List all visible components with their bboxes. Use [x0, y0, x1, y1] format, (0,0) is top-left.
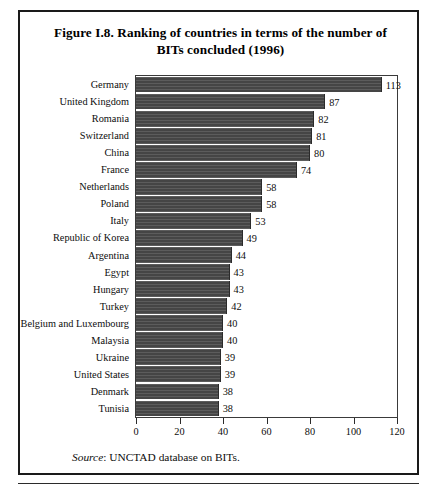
category-label: Italy	[14, 215, 135, 226]
value-axis: 020406080100120	[135, 418, 398, 448]
bar-value-label: 44	[232, 250, 246, 261]
bar-row: 44	[136, 247, 397, 263]
bar-chart: GermanyUnited KingdomRomaniaSwitzerlandC…	[20, 65, 417, 433]
bar	[136, 349, 221, 365]
x-axis-tick-label: 120	[389, 426, 404, 438]
category-label: Switzerland	[14, 130, 135, 141]
x-axis-tick	[136, 418, 137, 424]
bar	[136, 298, 227, 314]
category-label: China	[14, 147, 135, 158]
bar-row: 39	[136, 349, 397, 365]
bar-row: 53	[136, 213, 397, 229]
x-axis-tick	[223, 418, 224, 424]
x-axis-tick-label: 0	[133, 426, 138, 438]
bar	[136, 196, 262, 212]
category-label: Argentina	[14, 250, 135, 261]
plot-area: 1138782818074585853494443434240403939383…	[135, 75, 398, 418]
bar-row: 42	[136, 298, 397, 314]
bar	[136, 247, 232, 263]
bar-row: 74	[136, 162, 397, 178]
category-label: Malaysia	[14, 335, 135, 346]
category-label: Romania	[14, 113, 135, 124]
bar	[136, 315, 223, 331]
bar	[136, 77, 382, 93]
category-label: Egypt	[14, 267, 135, 278]
bar	[136, 332, 223, 348]
category-label: Hungary	[14, 284, 135, 295]
x-axis-tick-label: 100	[346, 426, 361, 438]
source-label: Source	[72, 451, 103, 463]
bar-row: 81	[136, 128, 397, 144]
figure-title: Figure I.8. Ranking of countries in term…	[32, 24, 409, 58]
bar-row: 43	[136, 281, 397, 297]
bar-value-label: 40	[223, 318, 237, 329]
bar-row: 87	[136, 94, 397, 110]
x-axis-tick-label: 60	[261, 426, 271, 438]
bar-row: 49	[136, 230, 397, 246]
bar-value-label: 53	[251, 215, 265, 226]
category-label: Denmark	[14, 386, 135, 397]
figure-title-line-1: Figure I.8. Ranking of countries in term…	[32, 24, 409, 41]
bar-value-label: 87	[325, 96, 339, 107]
bar-value-label: 38	[219, 386, 233, 397]
x-axis-tick	[397, 418, 398, 424]
bar-value-label: 80	[310, 147, 324, 158]
bar	[136, 401, 219, 417]
x-axis-tick-label: 80	[305, 426, 315, 438]
bar-row: 58	[136, 179, 397, 195]
category-axis-labels: GermanyUnited KingdomRomaniaSwitzerlandC…	[20, 65, 135, 408]
bar-row: 39	[136, 366, 397, 382]
category-label: Tunisia	[14, 403, 135, 414]
bar-value-label: 42	[227, 301, 241, 312]
x-axis-tick-label: 40	[218, 426, 228, 438]
bar-value-label: 39	[221, 352, 235, 363]
category-label: Turkey	[14, 301, 135, 312]
bar	[136, 128, 312, 144]
bar-row: 38	[136, 384, 397, 400]
source-note: Source: UNCTAD database on BITs.	[72, 450, 240, 464]
bar	[136, 179, 262, 195]
x-axis-tick-label: 20	[174, 426, 184, 438]
bar-row: 80	[136, 145, 397, 161]
bar-value-label: 82	[314, 113, 328, 124]
bar-value-label: 58	[262, 181, 276, 192]
bar	[136, 145, 310, 161]
bottom-rule	[18, 483, 419, 484]
x-axis-tick	[310, 418, 311, 424]
bar-row: 113	[136, 77, 397, 93]
bar	[136, 264, 230, 280]
x-axis-tick	[354, 418, 355, 424]
bar	[136, 213, 251, 229]
category-label: Ukraine	[14, 352, 135, 363]
bar-value-label: 43	[230, 284, 244, 295]
bar-value-label: 74	[297, 164, 311, 175]
bar-value-label: 40	[223, 335, 237, 346]
bar-row: 40	[136, 315, 397, 331]
source-separator: :	[103, 451, 106, 463]
category-label: Netherlands	[14, 181, 135, 192]
category-label: Belgium and Luxembourg	[14, 318, 135, 329]
bar-row: 58	[136, 196, 397, 212]
bar-row: 40	[136, 332, 397, 348]
category-label: United Kingdom	[14, 96, 135, 107]
bar	[136, 162, 297, 178]
x-axis-tick	[180, 418, 181, 424]
x-axis-tick	[267, 418, 268, 424]
bar-row: 38	[136, 401, 397, 417]
category-label: Poland	[14, 198, 135, 209]
category-label: France	[14, 164, 135, 175]
bars-layer: 1138782818074585853494443434240403939383…	[136, 76, 397, 417]
bar-value-label: 81	[312, 130, 326, 141]
bar-value-label: 38	[219, 403, 233, 414]
bar	[136, 384, 219, 400]
bar-value-label: 58	[262, 198, 276, 209]
source-text: UNCTAD database on BITs.	[109, 451, 240, 463]
bar	[136, 94, 325, 110]
category-label: Germany	[14, 79, 135, 90]
bar	[136, 111, 314, 127]
bar-value-label: 113	[382, 79, 401, 90]
bar-value-label: 49	[243, 232, 257, 243]
bar	[136, 230, 243, 246]
bar	[136, 281, 230, 297]
category-label: Republic of Korea	[14, 232, 135, 243]
